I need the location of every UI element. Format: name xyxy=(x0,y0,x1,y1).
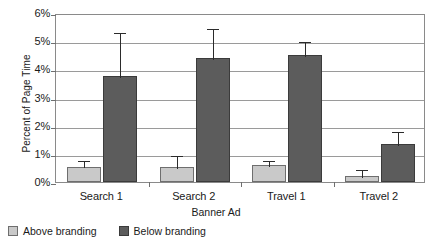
chart-legend: Above brandingBelow branding xyxy=(8,225,206,237)
y-axis-tick xyxy=(51,43,56,44)
bar xyxy=(288,55,322,182)
y-axis-tick xyxy=(51,156,56,157)
x-axis-tick xyxy=(334,182,335,187)
x-axis-tick-label: Travel 1 xyxy=(240,190,333,202)
y-axis-tick-label: 3% xyxy=(16,93,50,104)
error-bar-stem xyxy=(362,170,363,178)
y-axis-tick-label: 4% xyxy=(16,64,50,75)
error-bar-stem xyxy=(305,42,306,57)
legend-item: Above branding xyxy=(8,225,97,237)
y-axis-tick xyxy=(51,100,56,101)
error-bar-cap xyxy=(299,42,311,43)
y-axis-tick-label: 6% xyxy=(16,8,50,19)
error-bar-cap xyxy=(356,170,368,171)
plot-area xyxy=(55,14,425,183)
error-bar-cap xyxy=(78,161,90,162)
error-bar-cap xyxy=(263,161,275,162)
x-axis-tick-label: Search 1 xyxy=(55,190,148,202)
legend-swatch-icon xyxy=(8,226,18,236)
x-axis-tick xyxy=(241,182,242,187)
y-axis-tick-label: 5% xyxy=(16,36,50,47)
bar xyxy=(196,58,230,182)
error-bar-stem xyxy=(177,156,178,169)
x-axis-tick xyxy=(149,182,150,187)
gridline xyxy=(56,71,424,72)
error-bar-stem xyxy=(84,161,85,168)
error-bar-cap xyxy=(114,33,126,34)
y-axis-tick-label: 2% xyxy=(16,121,50,132)
y-axis-tick xyxy=(51,71,56,72)
legend-label: Below branding xyxy=(134,225,206,237)
error-bar-stem xyxy=(213,29,214,60)
bar xyxy=(381,144,415,182)
legend-swatch-icon xyxy=(119,226,129,236)
error-bar-cap xyxy=(171,156,183,157)
gridline xyxy=(56,43,424,44)
y-axis-tick xyxy=(51,128,56,129)
x-axis-tick-label: Travel 2 xyxy=(333,190,426,202)
error-bar-stem xyxy=(120,33,121,78)
bar xyxy=(160,167,194,182)
y-axis-tick-label: 1% xyxy=(16,149,50,160)
x-axis-tick-label: Search 2 xyxy=(148,190,241,202)
error-bar-cap xyxy=(392,132,404,133)
legend-label: Above branding xyxy=(23,225,97,237)
y-axis-tick-label: 0% xyxy=(16,177,50,188)
error-bar-stem xyxy=(398,132,399,146)
legend-item: Below branding xyxy=(119,225,206,237)
bar xyxy=(67,167,101,182)
error-bar-cap xyxy=(207,29,219,30)
bar xyxy=(103,76,137,182)
bar xyxy=(252,165,286,182)
chart-figure: Percent of Page Time 0%1%2%3%4%5%6% Sear… xyxy=(0,0,432,245)
y-axis-tick xyxy=(51,15,56,16)
y-axis-tick xyxy=(51,184,56,185)
x-axis-title: Banner Ad xyxy=(0,206,432,218)
